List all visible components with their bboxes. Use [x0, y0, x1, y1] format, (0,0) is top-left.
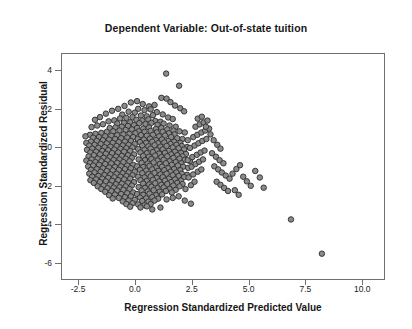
data-point [110, 196, 116, 202]
data-point [144, 204, 150, 210]
data-point [170, 195, 176, 201]
data-point [204, 136, 210, 142]
data-point [158, 205, 164, 211]
y-axis-label: Regression Standardized Residual [38, 44, 49, 284]
x-tick-label: -2.5 [58, 284, 98, 294]
data-point [199, 114, 205, 120]
data-point [182, 198, 188, 204]
data-point [128, 100, 134, 106]
data-point [106, 119, 112, 125]
data-point [181, 109, 187, 115]
data-point [182, 130, 188, 136]
data-point [140, 101, 146, 107]
x-tick-mark [135, 280, 136, 285]
data-point [202, 148, 208, 154]
x-tick-label: 10.0 [342, 284, 382, 294]
data-point [192, 179, 198, 185]
y-tick-label: 0 [18, 141, 52, 153]
y-tick-label: 4 [18, 64, 52, 76]
data-point [208, 132, 214, 138]
data-point [92, 117, 98, 123]
x-tick-mark [192, 280, 193, 285]
data-point [103, 111, 109, 117]
data-point [89, 124, 95, 130]
data-point [183, 186, 189, 192]
data-point [227, 176, 233, 182]
data-point [176, 83, 182, 89]
data-point [164, 197, 170, 203]
y-tick-label: -4 [18, 218, 52, 230]
data-point [150, 112, 156, 118]
data-point [257, 175, 263, 181]
data-point [115, 106, 121, 112]
data-point [160, 112, 166, 118]
x-tick-label: 5.0 [229, 284, 269, 294]
data-point [94, 123, 100, 129]
data-point [236, 192, 242, 198]
data-point [288, 217, 294, 223]
scatter-plot-figure: Dependent Variable: Out-of-state tuition… [0, 0, 412, 329]
data-point [185, 137, 191, 143]
y-tick-label: 2 [18, 103, 52, 115]
data-point [253, 168, 259, 174]
y-tick-label: -6 [18, 257, 52, 269]
data-point [237, 162, 243, 168]
chart-title: Dependent Variable: Out-of-state tuition [0, 22, 412, 34]
x-tick-mark [78, 280, 79, 285]
data-point [127, 204, 132, 210]
data-point [218, 146, 224, 152]
data-point [172, 103, 178, 109]
plot-area [61, 53, 385, 280]
data-point [176, 194, 182, 200]
data-point [221, 161, 227, 167]
data-point [142, 107, 148, 113]
data-point [138, 205, 144, 211]
data-point [117, 116, 123, 122]
data-point [148, 107, 154, 113]
data-point [205, 118, 211, 124]
data-points-layer [62, 54, 385, 280]
x-tick-label: 0.0 [115, 284, 155, 294]
data-point [109, 108, 115, 114]
data-point [177, 129, 183, 135]
data-point [319, 251, 325, 257]
data-point [170, 116, 176, 122]
x-tick-mark [362, 280, 363, 285]
x-tick-label: 2.5 [172, 284, 212, 294]
x-axis-label: Regression Standardized Predicted Value [61, 302, 385, 313]
y-tick-label: -2 [18, 180, 52, 192]
data-point [203, 124, 209, 130]
data-point [126, 109, 131, 115]
data-point [150, 207, 156, 213]
x-tick-label: 7.5 [285, 284, 325, 294]
data-point [134, 98, 140, 104]
data-point [200, 157, 206, 163]
data-point [83, 134, 89, 140]
data-point [232, 187, 238, 193]
data-point [188, 201, 194, 207]
data-point [225, 188, 231, 194]
data-point [122, 103, 128, 109]
data-point [199, 167, 205, 173]
data-point [163, 71, 169, 77]
data-point [169, 190, 175, 196]
data-point [230, 171, 236, 177]
x-tick-mark [305, 280, 306, 285]
data-point [248, 183, 254, 189]
data-point [159, 95, 165, 101]
data-point [100, 121, 106, 127]
x-tick-mark [249, 280, 250, 285]
data-point [261, 185, 267, 191]
